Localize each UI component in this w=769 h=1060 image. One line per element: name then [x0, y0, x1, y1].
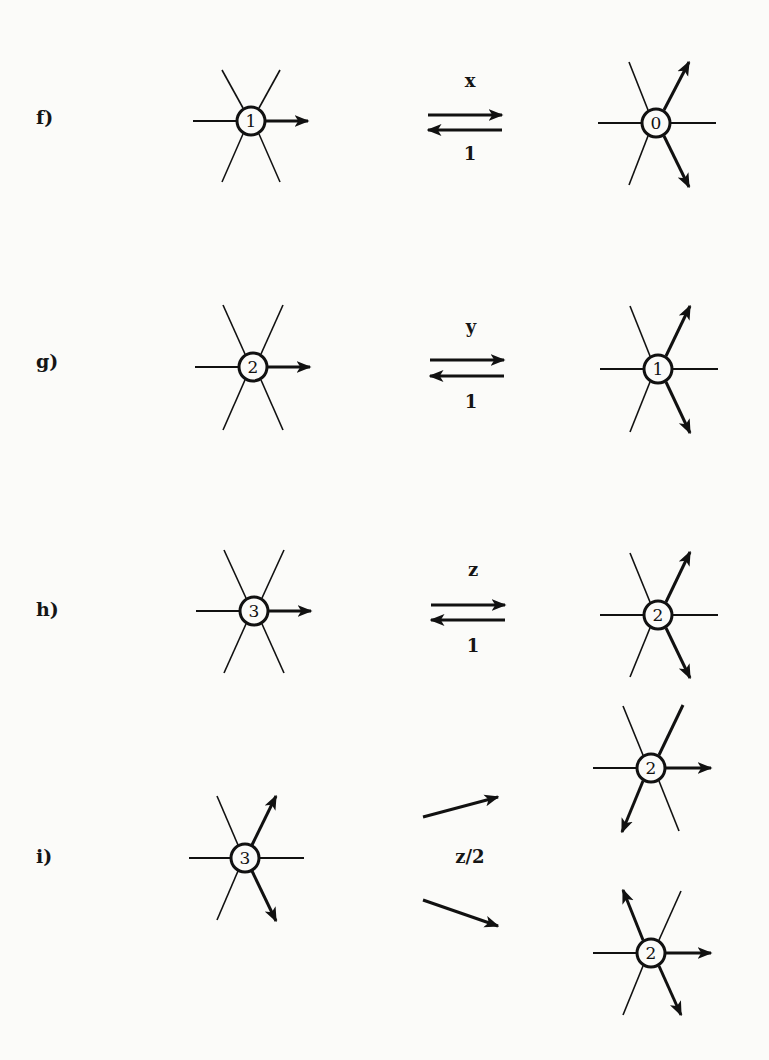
- reversible-arrows-f: [428, 115, 502, 130]
- backward-rate-g: 1: [441, 391, 501, 412]
- arrow-down-right-icon: [252, 871, 276, 921]
- arrow-up-right-icon: [252, 796, 276, 845]
- arrow-up-right-icon: [666, 306, 690, 356]
- forward-rate-f: x: [440, 70, 500, 91]
- arrow-down-right-icon: [659, 966, 681, 1015]
- forward-rate-h: z: [443, 559, 503, 580]
- vertex-f-left-value: 1: [246, 111, 257, 131]
- backward-rate-h: 1: [443, 635, 503, 656]
- vertex-f-right-value: 0: [651, 113, 662, 133]
- arrow-down-right-icon: [666, 628, 690, 678]
- row-label-f: f): [36, 106, 53, 128]
- forward-rate-g: y: [441, 316, 501, 337]
- row-label-g: g): [36, 350, 58, 372]
- arrow-up-right-icon: [666, 552, 690, 602]
- row-label-i: i): [36, 845, 52, 867]
- backward-rate-f: 1: [440, 143, 500, 164]
- reversible-arrows-g: [430, 360, 504, 376]
- arrow-up-left-icon: [623, 890, 643, 940]
- branch-rate-i: z/2: [440, 846, 500, 867]
- arrow-down-right-icon: [666, 382, 690, 433]
- branch-down-arrow-icon: [423, 900, 498, 926]
- arrow-down-left-icon: [622, 781, 643, 832]
- arrow-up-right-icon: [664, 62, 689, 110]
- vertex-i-right-bottom-value: 2: [646, 943, 657, 963]
- vertex-h-left-value: 3: [249, 601, 260, 621]
- row-label-h: h): [36, 598, 59, 620]
- vertex-g-left-value: 2: [248, 357, 259, 377]
- branch-up-arrow-icon: [423, 797, 498, 817]
- vertex-g-right-value: 1: [653, 359, 664, 379]
- vertex-i-right-top-value: 2: [646, 758, 657, 778]
- vertex-h-right-value: 2: [653, 605, 664, 625]
- reversible-arrows-h: [431, 605, 505, 620]
- vertex-i-left-value: 3: [240, 848, 251, 868]
- arrow-down-right-icon: [664, 136, 689, 187]
- vertex-transition-diagram: 1 0 2: [0, 0, 769, 1060]
